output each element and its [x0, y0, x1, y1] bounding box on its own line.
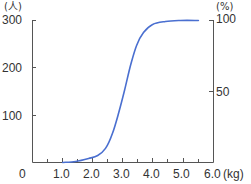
- x-tick-5: 5.0: [173, 167, 190, 181]
- x-unit-label: (kg): [223, 167, 244, 181]
- x-tick-1: 1.0: [53, 167, 70, 181]
- cumulative-curve: [63, 20, 199, 162]
- x-tick-2: 2.0: [83, 167, 100, 181]
- cumulative-distribution-chart: (人) 300 200 100 0 (%) 100 50 1.0 2.0 3.0…: [0, 0, 251, 184]
- x-tick-3: 3.0: [113, 167, 130, 181]
- y-left-tick-300: 300: [2, 13, 22, 27]
- x-tick-4: 4.0: [143, 167, 160, 181]
- y-left-tick-200: 200: [2, 61, 22, 75]
- y-left-tick-0: 0: [19, 167, 26, 181]
- y-right-tick-50: 50: [216, 85, 230, 99]
- x-tick-6: 6.0: [204, 167, 221, 181]
- y-left-tick-100: 100: [2, 109, 22, 123]
- y-right-unit-label: (%): [216, 1, 233, 12]
- y-left-unit-label: (人): [4, 1, 22, 12]
- axes: [32, 20, 214, 163]
- y-right-tick-100: 100: [216, 12, 236, 26]
